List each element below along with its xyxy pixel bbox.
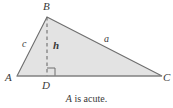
triangle-shape (17, 17, 162, 76)
vertex-label-d: D (42, 80, 50, 91)
vertex-label-b: B (43, 1, 50, 12)
vertex-label-c: C (163, 72, 170, 83)
figure-caption: A is acute. (0, 93, 173, 105)
triangle-diagram-svg (0, 0, 173, 108)
vertex-label-a: A (5, 72, 12, 83)
caption-text: is acute. (72, 93, 107, 104)
altitude-label-h: h (53, 40, 59, 51)
triangle-figure: B c h a A D C A is acute. (0, 0, 173, 108)
side-label-c: c (22, 39, 26, 49)
side-label-a: a (104, 34, 109, 44)
